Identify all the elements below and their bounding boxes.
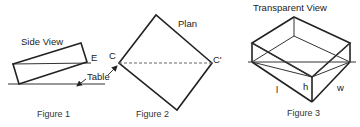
width-label: w	[336, 82, 344, 93]
side-view-title: Side View	[21, 36, 63, 47]
plan-title: Plan	[178, 18, 197, 29]
inner-line-1	[252, 43, 312, 77]
figure-1: Side View E Table Figure 1	[8, 36, 110, 119]
height-label: h	[303, 81, 308, 92]
inner-line-4	[312, 43, 350, 77]
table-arrow-icon	[77, 79, 86, 86]
figure-3-caption: Figure 3	[287, 108, 320, 118]
transparent-view-title: Transparent View	[253, 2, 327, 13]
edge-label-e: E	[91, 52, 97, 63]
corner-c-label: C	[109, 50, 116, 61]
figure-2-caption: Figure 2	[136, 109, 169, 119]
box-bottom-edge-w	[312, 62, 350, 102]
table-label: Table	[87, 71, 110, 82]
figure-1-caption: Figure 1	[37, 109, 70, 119]
figure-3: Transparent View l h w Figure 3	[248, 2, 356, 118]
diagram-canvas: Side View E Table Figure 1 Plan C C' Fig…	[0, 0, 360, 127]
length-label: l	[276, 84, 278, 95]
inner-diag-left	[252, 62, 312, 77]
figure-2: Plan C C' Figure 2	[108, 15, 222, 119]
inner-diag-right	[312, 62, 350, 77]
corner-c-prime-label: C'	[213, 54, 222, 65]
